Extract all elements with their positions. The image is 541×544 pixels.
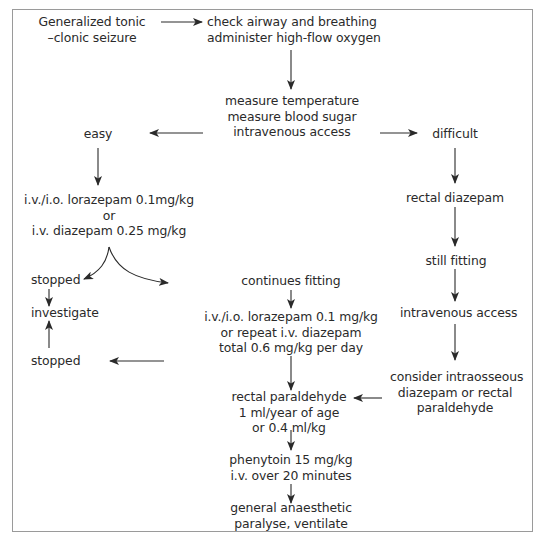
node-rectal-diazepam: rectal diazepam [400, 190, 510, 206]
node-second-line: i.v./i.o. lorazepam 0.1 mg/kg or repeat … [200, 309, 382, 356]
node-measure: measure temperature measure blood sugar … [214, 93, 370, 140]
node-difficult: difficult [425, 126, 485, 142]
node-still-fitting: still fitting [415, 253, 497, 269]
node-seizure: Generalized tonic –clonic seizure [28, 14, 156, 45]
node-stopped-1: stopped [31, 272, 80, 288]
node-anaesthetic: general anaesthetic paralyse, ventilate [226, 500, 356, 531]
node-easy: easy [78, 126, 118, 142]
node-airway: check airway and breathing administer hi… [207, 14, 377, 45]
node-intraosseous: consider intraosseous diazepam or rectal… [390, 369, 520, 416]
node-investigate: investigate [31, 305, 99, 321]
node-phenytoin: phenytoin 15 mg/kg i.v. over 20 minutes [226, 452, 356, 483]
node-iv-access: intravenous access [400, 305, 512, 321]
node-stopped-2: stopped [31, 353, 80, 369]
node-paraldehyde: rectal paraldehyde 1 ml/year of age or 0… [228, 389, 350, 436]
node-continues-fitting: continues fitting [232, 273, 350, 289]
node-first-line: i.v./i.o. lorazepam 0.1mg/kg or i.v. dia… [24, 192, 194, 239]
